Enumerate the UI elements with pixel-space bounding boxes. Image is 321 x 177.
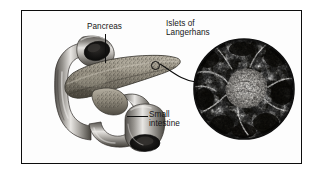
pancreas-leader-line xyxy=(105,34,106,63)
label-pancreas: Pancreas xyxy=(87,22,122,31)
label-islets-of-langerhans: Islets of Langerhans xyxy=(166,19,210,38)
figure-root: Pancreas Islets of Langerhans Small inte… xyxy=(0,0,321,177)
small-intestine-leader-line xyxy=(127,116,148,117)
micrograph-svg xyxy=(192,37,296,141)
islet-location-marker xyxy=(151,61,160,70)
islets-of-langerhans-micrograph xyxy=(192,37,296,141)
label-small-intestine: Small intestine xyxy=(149,110,180,129)
